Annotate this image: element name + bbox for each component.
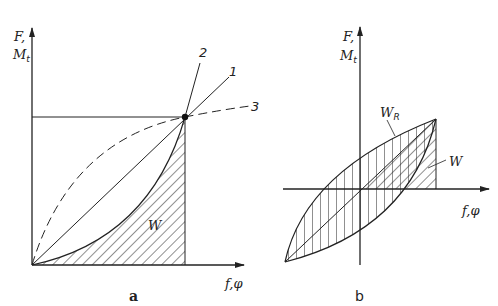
area-label-w-a: W bbox=[148, 218, 163, 233]
operating-point bbox=[182, 114, 188, 120]
wr-leader-line bbox=[387, 120, 395, 136]
line-2-progressive bbox=[185, 63, 200, 117]
area-label-w-b: W bbox=[449, 154, 464, 169]
hysteresis-label-wr: WR bbox=[380, 105, 400, 122]
y-axis-label-a-line1: F, bbox=[13, 29, 25, 44]
y-axis-label-a-line2: Mt bbox=[12, 47, 30, 64]
curve-label-1: 1 bbox=[229, 64, 237, 79]
caption-a: a bbox=[129, 288, 138, 304]
curve-label-3: 3 bbox=[251, 99, 259, 114]
caption-b: b bbox=[355, 288, 364, 304]
spring-characteristic-diagram: F, Mt 2 1 3 W f,φ a F, Mt WR W f,φ b bbox=[0, 0, 498, 306]
x-axis-label-a: f,φ bbox=[224, 276, 243, 291]
panel-b: F, Mt WR W f,φ b bbox=[280, 27, 489, 304]
area-w-hatch bbox=[32, 110, 192, 270]
panel-a: F, Mt 2 1 3 W f,φ a bbox=[12, 28, 259, 304]
y-axis-label-b-line2: Mt bbox=[339, 48, 357, 65]
curve-label-2: 2 bbox=[199, 45, 207, 60]
y-axis-label-b-line1: F, bbox=[342, 29, 354, 44]
x-axis-label-b: f,φ bbox=[461, 203, 480, 218]
